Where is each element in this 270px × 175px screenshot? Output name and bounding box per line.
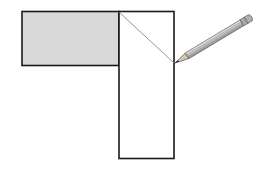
vertical-rectangle [119,12,174,159]
pencil-icon [173,14,253,66]
shaded-rectangle [22,12,119,66]
diagram-canvas [0,0,270,175]
